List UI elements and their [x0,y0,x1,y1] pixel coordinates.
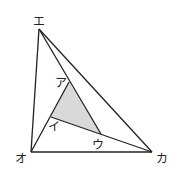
label-u: ウ [92,138,104,152]
label-ka: カ [156,152,168,166]
label-o: オ [15,152,27,166]
segment-e-o [31,29,39,152]
label-i: イ [48,120,60,134]
label-e: エ [33,15,45,29]
geometry-diagram: エ オ カ ア イ ウ [0,0,181,179]
label-a: ア [55,76,67,90]
